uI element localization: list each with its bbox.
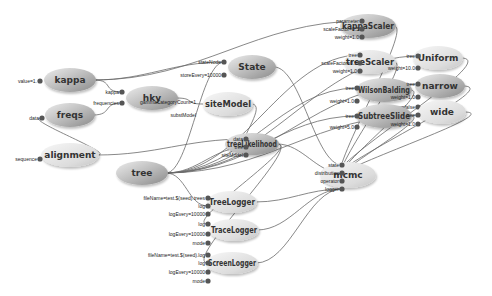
node-treelogger[interactable]: TreeLoggerfileName=test.$(seed).treeslog… <box>143 191 257 217</box>
port-connector-icon[interactable] <box>357 68 362 73</box>
port-weight-5-0[interactable]: weight=5.0 <box>330 124 360 130</box>
port-filename-test-seed-trees[interactable]: fileName=test.$(seed).trees <box>143 195 210 201</box>
port-connector-icon[interactable] <box>205 221 210 226</box>
port-connector-icon[interactable] <box>359 18 364 23</box>
port-state[interactable]: state <box>328 162 344 168</box>
port-mode[interactable]: mode <box>192 278 210 284</box>
port-connector-icon[interactable] <box>339 178 344 183</box>
port-substmodel[interactable]: substModel <box>170 112 196 118</box>
port-frequencies[interactable]: frequencies <box>93 100 124 106</box>
port-connector-icon[interactable] <box>415 121 420 126</box>
port-connector-icon[interactable] <box>205 203 210 208</box>
node-label: kappa <box>54 75 85 85</box>
port-connector-icon[interactable] <box>221 59 226 64</box>
port-connector-icon[interactable] <box>415 81 420 86</box>
port-kappa[interactable]: kappa <box>105 89 124 95</box>
port-connector-icon[interactable] <box>119 89 124 94</box>
port-connector-icon[interactable] <box>357 60 362 65</box>
port-connector-icon[interactable] <box>205 278 210 283</box>
port-data[interactable]: data <box>233 136 248 142</box>
port-weight-10-0[interactable]: weight=10.0 <box>388 65 421 71</box>
port-connector-icon[interactable] <box>37 156 42 161</box>
port-connector-icon[interactable] <box>205 252 210 257</box>
port-scalefactor-0-5[interactable]: scaleFactor=0.5 <box>321 60 362 66</box>
port-connector-icon[interactable] <box>243 152 248 157</box>
port-connector-icon[interactable] <box>37 78 42 83</box>
port-connector-icon[interactable] <box>205 211 210 216</box>
port-connector-icon[interactable] <box>354 124 359 129</box>
port-logger[interactable]: logger <box>325 186 345 192</box>
port-connector-icon[interactable] <box>339 170 344 175</box>
port-connector-icon[interactable] <box>415 112 420 117</box>
node-treescaler[interactable]: treeScalertreescaleFactor=0.5weight=1.0 <box>321 50 396 74</box>
port-scalefactor-0-5[interactable]: scaleFactor=0.5 <box>323 26 364 32</box>
port-label: tree <box>348 52 357 58</box>
port-logevery-10000[interactable]: logEvery=10000 <box>169 269 211 275</box>
port-tree[interactable]: tree <box>406 81 420 87</box>
port-connector-icon[interactable] <box>205 269 210 274</box>
port-tree[interactable]: tree <box>406 112 420 118</box>
port-connector-icon[interactable] <box>39 115 44 120</box>
port-logevery-10000[interactable]: logEvery=10000 <box>169 231 211 237</box>
port-connector-icon[interactable] <box>205 240 210 245</box>
port-label: data <box>29 115 39 121</box>
port-log[interactable]: log <box>198 203 210 209</box>
port-log[interactable]: log <box>198 260 210 266</box>
port-filename-test-seed-log[interactable]: fileName=test.$(seed).log <box>148 252 211 258</box>
port-tree[interactable]: tree <box>345 85 359 91</box>
port-connector-icon[interactable] <box>415 65 420 70</box>
port-label: sequence <box>15 156 37 162</box>
port-connector-icon[interactable] <box>221 72 226 77</box>
port-connector-icon[interactable] <box>359 26 364 31</box>
port-mode[interactable]: mode <box>192 240 210 246</box>
node-tree[interactable]: tree <box>116 161 168 185</box>
port-value-1[interactable]: value=1. <box>18 78 43 84</box>
node-kappascaler[interactable]: kappaScalerparameterscaleFactor=0.5weigh… <box>323 14 396 40</box>
port-connector-icon[interactable] <box>205 231 210 236</box>
port-tree[interactable]: tree <box>406 53 420 59</box>
port-connector-icon[interactable] <box>119 100 124 105</box>
port-tree[interactable]: tree <box>345 113 359 119</box>
port-tree[interactable]: tree <box>348 52 362 58</box>
port-connector-icon[interactable] <box>243 136 248 141</box>
node-screenlogger[interactable]: ScreenLoggerfileName=test.$(seed).loglog… <box>148 252 258 284</box>
port-label: tree <box>234 144 243 150</box>
node-wilsonbalding[interactable]: WilsonBaldingtreeweight=1.0 <box>330 78 412 104</box>
port-connector-icon[interactable] <box>205 260 210 265</box>
port-connector-icon[interactable] <box>339 162 344 167</box>
node-hky[interactable]: hkykappafrequenciesgammaCategoryCount=1s… <box>93 86 196 118</box>
node-sitemodel[interactable]: siteModel <box>203 92 253 116</box>
node-kappa[interactable]: kappavalue=1. <box>18 68 96 92</box>
node-uniform[interactable]: Uniformtreeweight=10.0 <box>388 46 463 71</box>
port-operator[interactable]: operator <box>320 178 344 184</box>
port-connector-icon[interactable] <box>354 98 359 103</box>
port-label: log <box>198 221 205 227</box>
port-gammacategorycount-1[interactable]: gammaCategoryCount=1 <box>140 99 196 105</box>
port-connector-icon[interactable] <box>415 53 420 58</box>
port-weight-1-0[interactable]: weight=1.0 <box>391 94 421 100</box>
port-storeevery-10000[interactable]: storeEvery=10000 <box>180 72 226 78</box>
port-statenode[interactable]: stateNode <box>198 59 226 65</box>
port-connector-icon[interactable] <box>243 144 248 149</box>
node-label: SubtreeSlide <box>358 111 410 121</box>
port-connector-icon[interactable] <box>354 85 359 90</box>
port-connector-icon[interactable] <box>359 34 364 39</box>
port-connector-icon[interactable] <box>415 94 420 99</box>
node-treelikelihood[interactable]: treeLikelihooddatatreesiteModel <box>222 133 279 158</box>
node-freqs[interactable]: freqsdata <box>29 103 95 127</box>
port-connector-icon[interactable] <box>357 52 362 57</box>
port-tree[interactable]: tree <box>234 144 248 150</box>
port-connector-icon[interactable] <box>339 186 344 191</box>
port-data[interactable]: data <box>29 115 44 121</box>
port-log[interactable]: log <box>198 221 210 227</box>
node-state[interactable]: StatestateNodestoreEvery=10000 <box>180 55 276 79</box>
port-connector-icon[interactable] <box>354 113 359 118</box>
node-mcmc[interactable]: mcmcstatedistributionoperatorlogger <box>315 162 376 192</box>
node-alignment[interactable]: alignmentsequence <box>15 143 99 167</box>
port-sequence[interactable]: sequence <box>15 156 42 162</box>
node-tracelogger[interactable]: TraceLoggerloglogEvery=10000mode <box>169 219 259 246</box>
port-weight-1-0[interactable]: weight=1.0 <box>330 98 360 104</box>
port-label: stateNode <box>198 59 221 65</box>
port-logevery-10000[interactable]: logEvery=10000 <box>169 211 211 217</box>
port-connector-icon[interactable] <box>205 195 210 200</box>
